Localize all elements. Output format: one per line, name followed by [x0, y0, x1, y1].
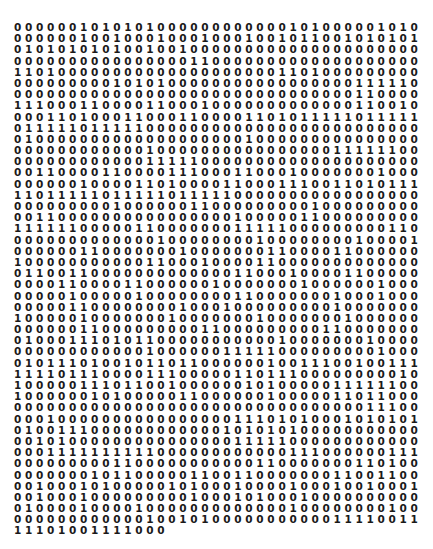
binary-digit: 0 [333, 402, 344, 413]
binary-digit: 0 [168, 402, 179, 413]
binary-digit: 0 [124, 402, 135, 413]
binary-digit: 0 [47, 100, 58, 111]
binary-digit: 1 [267, 223, 278, 234]
binary-digit: 0 [157, 223, 168, 234]
binary-digit: 0 [400, 346, 411, 357]
binary-digit: 1 [146, 223, 157, 234]
binary-digit: 0 [333, 100, 344, 111]
binary-digit: 0 [333, 458, 344, 469]
binary-digit: 0 [80, 44, 91, 55]
binary-digit: 0 [333, 346, 344, 357]
binary-digit: 0 [245, 44, 256, 55]
binary-digit: 1 [58, 279, 69, 290]
binary-digit: 0 [168, 458, 179, 469]
binary-digit: 1 [223, 346, 234, 357]
binary-digit: 0 [80, 167, 91, 178]
binary-digit: 0 [124, 44, 135, 55]
binary-digit: 0 [212, 346, 223, 357]
binary-digit: 0 [378, 100, 389, 111]
binary-digit: 0 [36, 458, 47, 469]
binary-digit: 0 [47, 346, 58, 357]
binary-digit: 0 [256, 167, 267, 178]
binary-digit: 1 [135, 279, 146, 290]
binary-digit: 0 [300, 458, 311, 469]
binary-digit: 0 [146, 402, 157, 413]
binary-digit: 0 [322, 167, 333, 178]
binary-digit: 0 [58, 100, 69, 111]
binary-digit: 0 [47, 402, 58, 413]
binary-digit: 0 [256, 44, 267, 55]
binary-digit: 1 [400, 514, 411, 525]
binary-digit: 1 [234, 167, 245, 178]
binary-digit: 1 [344, 514, 355, 525]
binary-digit: 1 [245, 223, 256, 234]
binary-digit: 0 [278, 346, 289, 357]
binary-digit: 0 [344, 279, 355, 290]
binary-digit: 1 [135, 223, 146, 234]
binary-digit: 0 [245, 458, 256, 469]
binary-digit: 0 [190, 346, 201, 357]
binary-digit: 0 [146, 525, 157, 536]
binary-digit: 1 [113, 525, 124, 536]
binary-digit: 1 [389, 223, 400, 234]
binary-digit: 0 [322, 44, 333, 55]
binary-digit: 1 [36, 525, 47, 536]
binary-digit: 0 [14, 458, 25, 469]
binary-digit: 0 [36, 402, 47, 413]
binary-digit: 0 [223, 514, 234, 525]
binary-digit: 0 [25, 458, 36, 469]
binary-digit: 0 [311, 167, 322, 178]
binary-digit: 0 [234, 458, 245, 469]
binary-digit: 0 [190, 458, 201, 469]
binary-digit: 1 [355, 458, 366, 469]
binary-digit: 1 [25, 223, 36, 234]
binary-digit: 0 [234, 514, 245, 525]
binary-digit: 0 [322, 514, 333, 525]
binary-digit: 0 [344, 223, 355, 234]
binary-row: 0000000001100000000000110000000110100 [14, 458, 422, 469]
binary-digit: 0 [135, 346, 146, 357]
binary-digit: 0 [190, 402, 201, 413]
binary-digit: 0 [201, 279, 212, 290]
binary-digit: 0 [278, 514, 289, 525]
binary-digit: 0 [80, 223, 91, 234]
binary-digit: 0 [47, 458, 58, 469]
binary-digit: 0 [355, 402, 366, 413]
binary-digit: 0 [91, 402, 102, 413]
binary-digit: 0 [300, 167, 311, 178]
binary-digit-grid: 0000001010101000000000000101000001010000… [14, 22, 422, 537]
binary-row: 0001101000110001100001101011111011111 [14, 112, 422, 123]
binary-digit: 1 [47, 44, 58, 55]
binary-digit: 0 [212, 100, 223, 111]
binary-digit: 0 [80, 402, 91, 413]
binary-digit: 0 [234, 44, 245, 55]
binary-digit: 0 [411, 223, 422, 234]
binary-digit: 0 [367, 223, 378, 234]
binary-digit: 0 [124, 167, 135, 178]
binary-digit: 1 [124, 279, 135, 290]
binary-digit: 0 [300, 346, 311, 357]
binary-digit: 0 [322, 346, 333, 357]
binary-digit: 0 [355, 223, 366, 234]
binary-digit: 0 [300, 402, 311, 413]
binary-digit: 0 [378, 458, 389, 469]
binary-digit: 0 [245, 402, 256, 413]
binary-digit: 0 [400, 458, 411, 469]
binary-digit: 0 [102, 458, 113, 469]
binary-digit: 1 [113, 44, 124, 55]
binary-digit: 1 [400, 223, 411, 234]
binary-digit: 0 [168, 44, 179, 55]
binary-digit: 0 [367, 279, 378, 290]
binary-digit: 0 [322, 279, 333, 290]
binary-digit: 0 [113, 402, 124, 413]
binary-row: 11101001111000 [14, 525, 422, 536]
binary-digit: 0 [190, 279, 201, 290]
binary-digit: 0 [278, 167, 289, 178]
binary-digit: 1 [378, 402, 389, 413]
binary-digit: 1 [201, 514, 212, 525]
binary-digit: 0 [91, 279, 102, 290]
binary-digit: 1 [245, 167, 256, 178]
binary-digit: 0 [389, 279, 400, 290]
binary-digit: 0 [146, 167, 157, 178]
binary-digit: 1 [36, 167, 47, 178]
